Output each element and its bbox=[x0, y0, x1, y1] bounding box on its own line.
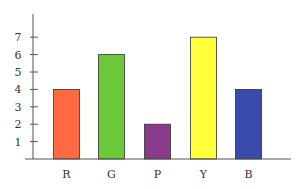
y-tick-label: 4 bbox=[15, 83, 22, 96]
bar-chart: 1234567 RGPYB bbox=[0, 0, 307, 189]
bar-p bbox=[145, 124, 171, 159]
y-tick-label: 2 bbox=[15, 118, 22, 131]
y-tick-label: 6 bbox=[15, 49, 22, 62]
bar-b bbox=[236, 89, 262, 159]
x-axis: RGPYB bbox=[25, 159, 291, 181]
x-tick-label: B bbox=[244, 168, 252, 181]
y-tick-label: 1 bbox=[15, 136, 22, 149]
y-axis: 1234567 bbox=[15, 14, 39, 159]
y-tick-label: 7 bbox=[15, 31, 22, 44]
x-tick-label: G bbox=[107, 168, 116, 181]
y-tick-label: 3 bbox=[15, 101, 22, 114]
x-tick-label: Y bbox=[199, 168, 208, 181]
bar-g bbox=[99, 55, 125, 159]
y-tick-label: 5 bbox=[15, 66, 22, 79]
bar-y bbox=[191, 37, 217, 159]
bars-group bbox=[54, 37, 262, 159]
x-tick-label: P bbox=[154, 168, 162, 181]
x-tick-label: R bbox=[62, 168, 71, 181]
bar-r bbox=[54, 89, 80, 159]
